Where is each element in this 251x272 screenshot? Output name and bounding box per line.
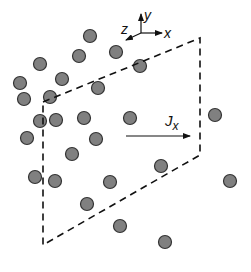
particle [73,50,86,63]
particle [81,198,94,211]
flux-label-subscript: x [173,119,179,133]
particle [14,77,27,90]
particle [92,82,105,95]
particle [104,176,117,189]
particle-flux-diagram [0,0,251,272]
particle [78,112,91,125]
x-axis-label: x [164,26,171,40]
particle [124,112,137,125]
particle [34,58,47,71]
y-axis-label: y [144,8,151,22]
particle [29,171,42,184]
flux-label-main: J [165,112,173,129]
particle [56,73,69,86]
particle [66,148,79,161]
particle [209,109,222,122]
particle [49,175,62,188]
particle [114,220,127,233]
particle [224,175,237,188]
particles-group [14,30,237,249]
particle [21,132,34,145]
particle [34,115,47,128]
particle [159,236,172,249]
particle [18,93,31,106]
particle [90,133,103,146]
z-axis-arrow-icon [126,33,141,40]
particle [50,114,63,127]
particle [155,160,168,173]
particle [110,46,123,59]
particle [84,30,97,43]
dashed-plane [43,38,200,245]
z-axis-label: z [121,22,128,36]
flux-label: Jx [165,113,179,132]
